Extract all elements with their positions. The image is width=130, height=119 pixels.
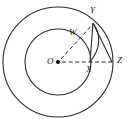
segment-O-Y	[61, 24, 93, 59]
point-label-O: O	[47, 57, 54, 66]
point-label-Z: Z	[117, 56, 122, 65]
geometry-canvas	[0, 0, 130, 119]
point-label-W: W	[69, 28, 77, 37]
point-label-Y: Y	[90, 6, 95, 15]
segment-Y-X	[90, 23, 93, 62]
point-label-X: X	[86, 65, 92, 74]
geometry-figure: O W X Y Z	[0, 0, 130, 119]
center-point-dot	[56, 60, 60, 64]
